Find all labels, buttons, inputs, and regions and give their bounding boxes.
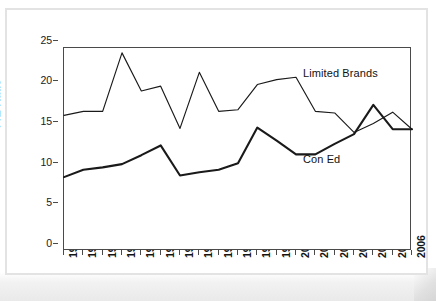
x-tick-label-2006: 2006 xyxy=(415,235,427,258)
y-tick-label-5: 5 xyxy=(26,196,52,208)
y-tick-label-15: 15 xyxy=(26,115,52,127)
y-tick-label-20: 20 xyxy=(26,74,52,86)
y-tick-label-25: 25 xyxy=(26,34,52,46)
series-label-con-ed: Con Ed xyxy=(303,153,340,165)
figure-frame: P/E Ratio 25 20 15 10 5 0 19881989199019… xyxy=(5,8,428,275)
y-axis-title: P/E Ratio xyxy=(0,79,2,128)
y-tick-label-10: 10 xyxy=(26,156,52,168)
y-tick-mark-15 xyxy=(53,121,58,122)
line-con-ed xyxy=(64,105,412,177)
y-tick-mark-10 xyxy=(53,162,58,163)
y-tick-mark-5 xyxy=(53,202,58,203)
line-limited-brands xyxy=(64,53,412,133)
page-shadow xyxy=(0,272,436,301)
y-tick-mark-20 xyxy=(53,80,58,81)
series-label-limited-brands: Limited Brands xyxy=(303,67,378,79)
y-tick-label-0: 0 xyxy=(26,237,52,249)
y-tick-mark-25 xyxy=(53,40,58,41)
chart-screenshot: P/E Ratio 25 20 15 10 5 0 19881989199019… xyxy=(0,0,436,301)
y-tick-mark-0 xyxy=(53,243,58,244)
